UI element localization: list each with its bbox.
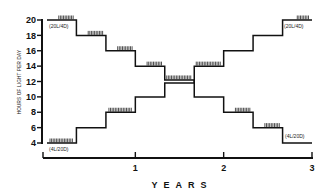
y-axis-label: HOURS OF LIGHT PER DAY [17, 50, 22, 114]
x-axis: 123 [43, 152, 315, 173]
annotation-label: (20L/4D) [284, 23, 304, 29]
annotation-label: (4L/20D) [285, 133, 305, 139]
x-tick-label: 2 [221, 163, 226, 173]
annotation-label: (20L/4D) [49, 23, 69, 29]
y-axis: 468101214161820 [26, 15, 42, 148]
series-line-increasing [47, 20, 312, 143]
series-lines [47, 20, 312, 143]
y-tick-label: 14 [26, 61, 36, 71]
series-line-decreasing [47, 20, 312, 143]
x-axis-label: YEARS [151, 180, 212, 190]
y-tick-label: 20 [26, 15, 36, 25]
x-tick-label: 3 [309, 163, 314, 173]
x-tick-label: 1 [133, 163, 138, 173]
hatch-marks [50, 16, 308, 143]
photoperiod-step-chart: 468101214161820 123 (20L/4D)(4L/20D)(20L… [0, 0, 325, 196]
y-tick-label: 18 [26, 31, 36, 41]
y-tick-label: 12 [26, 77, 36, 87]
y-tick-label: 16 [26, 46, 36, 56]
y-tick-label: 4 [31, 138, 36, 148]
y-tick-label: 6 [31, 123, 36, 133]
annotation-label: (4L/20D) [49, 146, 69, 152]
annotations: (20L/4D)(4L/20D)(20L/4D)(4L/20D) [49, 23, 305, 152]
y-tick-label: 10 [26, 92, 36, 102]
y-tick-label: 8 [31, 107, 36, 117]
